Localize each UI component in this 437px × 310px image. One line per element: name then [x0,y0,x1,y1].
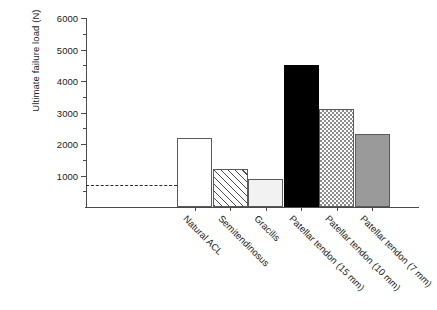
y-tick-3000 [81,113,86,114]
x-tick-5 [372,207,373,211]
y-axis-line [86,18,87,207]
y-tick-5000 [81,50,86,51]
x-tick-0 [195,207,196,211]
y-axis-title: Ultimate failure load (N) [30,0,41,136]
bar-4 [319,109,354,207]
x-tick-4 [337,207,338,211]
y-tick-2000 [81,144,86,145]
bar-0 [177,138,212,207]
y-minor-tick-5500 [83,34,86,35]
y-minor-tick-4500 [83,65,86,66]
bar-1 [213,169,248,207]
y-tick-label-5000: 5000 [57,44,78,55]
reference-line [86,185,177,186]
x-tick-2 [266,207,267,211]
y-tick-6000 [81,18,86,19]
y-minor-tick-1500 [83,160,86,161]
y-tick-label-1000: 1000 [57,170,78,181]
bar-3 [284,65,319,207]
plot-area: 100020003000400050006000 [86,18,388,207]
category-label-2: Gracilis [252,213,282,243]
y-tick-label-4000: 4000 [57,76,78,87]
y-minor-tick-2500 [83,128,86,129]
y-tick-4000 [81,81,86,82]
x-tick-1 [230,207,231,211]
x-axis-line [85,207,419,208]
bar-5 [355,134,390,207]
y-tick-label-6000: 6000 [57,13,78,24]
bar-chart-figure: Ultimate failure load (N) 10002000300040… [0,0,437,310]
y-tick-label-2000: 2000 [57,139,78,150]
y-tick-label-3000: 3000 [57,107,78,118]
y-minor-tick-500 [83,191,86,192]
x-tick-3 [301,207,302,211]
bar-2 [248,179,283,207]
y-minor-tick-3500 [83,97,86,98]
y-tick-1000 [81,176,86,177]
